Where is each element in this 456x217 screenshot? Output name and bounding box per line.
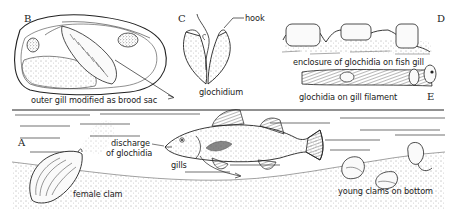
label-brood-sac: outer gill modified as brood sac: [31, 96, 157, 104]
label-gills: gills: [171, 161, 187, 169]
panel-letter-b: B: [24, 14, 31, 24]
label-gill-filament: glochidia on gill filament: [299, 93, 397, 101]
panel-e-gill-filament: [302, 65, 436, 86]
illustration-canvas: [0, 0, 456, 217]
label-glochidium: glochidium: [199, 88, 243, 96]
label-enclosure: enclosure of glochidia on fish gill: [293, 58, 424, 66]
label-discharge-line1: discharge: [111, 139, 150, 147]
panel-letter-e: E: [427, 92, 434, 102]
label-female-clam: female clam: [73, 190, 123, 198]
label-discharge-line2: of glochidia: [106, 149, 152, 157]
panel-letter-d: D: [437, 14, 445, 24]
panel-c-glochidium: [183, 14, 244, 84]
mussel-life-cycle-figure: B outer gill modified as brood sac C hoo…: [0, 0, 456, 217]
panel-b-clam-interior: [15, 15, 174, 99]
panel-d-gill-enclosure: [282, 24, 432, 55]
panel-letter-c: C: [178, 14, 186, 24]
label-young-clams: young clams on bottom: [338, 187, 433, 195]
label-hook: hook: [245, 14, 265, 22]
panel-letter-a: A: [18, 138, 25, 148]
